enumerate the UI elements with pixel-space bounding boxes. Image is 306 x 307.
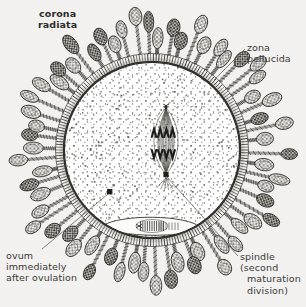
label-spindle-line3: maturation	[240, 273, 301, 284]
label-zona-pellucida: zona pellucida	[247, 42, 291, 64]
label-spindle-line1: spindle	[240, 251, 275, 262]
label-spindle: spindle (second maturationdivision)	[240, 251, 301, 296]
label-ovum: ovum immediately after ovulation	[6, 250, 77, 284]
label-spindle-line4: division)	[240, 285, 301, 296]
cytoplasmic-granule	[107, 189, 112, 194]
label-corona-radiata: corona radiata	[38, 8, 77, 30]
label-spindle-line2: (second	[240, 262, 278, 273]
